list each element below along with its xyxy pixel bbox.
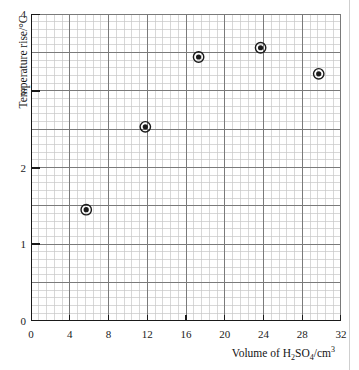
x-tick-label: 16 bbox=[181, 329, 192, 340]
x-tick-label: 0 bbox=[28, 329, 34, 340]
y-tick-label: 1 bbox=[11, 239, 26, 250]
x-tick-label: 28 bbox=[297, 329, 308, 340]
x-tick-label: 4 bbox=[67, 329, 73, 340]
x-tick-label: 20 bbox=[219, 329, 230, 340]
data-points bbox=[31, 14, 341, 321]
y-tick-label: 0 bbox=[11, 316, 26, 327]
x-tick-label: 24 bbox=[258, 329, 269, 340]
plot-area bbox=[31, 14, 341, 321]
x-axis-title: Volume of H2SO4/cm3 bbox=[0, 345, 341, 362]
page-edge-line bbox=[349, 0, 350, 370]
x-tick-label: 8 bbox=[106, 329, 112, 340]
y-axis-title: Temperature rise/°C bbox=[17, 0, 29, 137]
x-tick-label: 12 bbox=[142, 329, 153, 340]
temperature-rise-scatter-chart: 048121620242832 01234 Volume of H2SO4/cm… bbox=[0, 0, 359, 370]
x-tick-label: 32 bbox=[336, 329, 347, 340]
y-tick-label: 2 bbox=[11, 162, 26, 173]
